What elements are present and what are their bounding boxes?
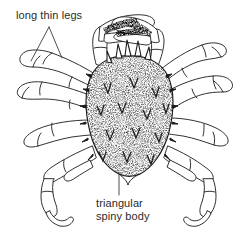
right-legs-group <box>159 43 233 226</box>
label-long-thin-legs: long thin legs <box>16 9 82 22</box>
carapace-body <box>80 40 178 185</box>
crab-illustration-figure: long thin legs triangularspiny body <box>0 0 251 236</box>
label-body-line2: spiny body <box>96 210 150 222</box>
label-body-line1: triangular <box>96 197 143 209</box>
label-triangular-spiny-body: triangularspiny body <box>96 197 150 222</box>
left-legs-group <box>17 50 96 226</box>
